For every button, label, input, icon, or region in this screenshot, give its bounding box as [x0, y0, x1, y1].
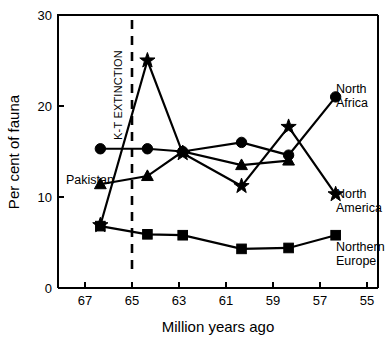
data-point-circle	[236, 137, 246, 147]
data-point-square	[331, 230, 341, 240]
x-tick-label-63: 63	[172, 293, 186, 308]
data-point-square	[143, 230, 153, 240]
x-tick-label-67: 67	[78, 293, 92, 308]
series-label-northern-europe-line2: Europe	[336, 254, 376, 268]
series-label-north-america-line1: North	[336, 187, 367, 201]
data-point-square	[284, 243, 294, 253]
data-point-square	[237, 244, 247, 254]
y-axis-title: Per cent of fauna	[5, 94, 22, 209]
data-point-star	[281, 119, 296, 133]
series-label-northern-europe-line1: Northern	[336, 240, 385, 254]
data-point-star	[140, 53, 155, 67]
series-label-north-america-line2: America	[336, 201, 382, 215]
k-t-extinction-label: K-T EXTINCTION	[112, 50, 124, 140]
series-north-america	[93, 53, 344, 232]
chart-svg: 0 10 20 30 67 65 63 61 59 57 55 Million …	[0, 0, 390, 343]
data-point-star	[175, 145, 190, 159]
data-point-triangle	[142, 170, 154, 181]
x-tick-label-65: 65	[125, 293, 139, 308]
series-layer	[93, 53, 344, 254]
x-tick-label-55: 55	[360, 293, 374, 308]
data-point-square	[96, 221, 106, 231]
series-label-north-africa-line2: Africa	[336, 96, 368, 110]
y-tick-label-0: 0	[45, 281, 52, 296]
fauna-turnover-chart: 0 10 20 30 67 65 63 61 59 57 55 Million …	[0, 0, 390, 343]
series-path	[100, 61, 335, 226]
series-label-north-africa-line1: North	[336, 82, 367, 96]
series-path	[100, 226, 335, 249]
x-tick-label-57: 57	[313, 293, 327, 308]
data-point-circle	[142, 144, 152, 154]
series-path	[100, 152, 288, 185]
series-pakistan	[94, 145, 294, 188]
x-tick-label-59: 59	[266, 293, 280, 308]
data-point-square	[178, 230, 188, 240]
x-axis-title: Million years ago	[162, 318, 275, 335]
plot-frame	[58, 15, 378, 288]
y-tick-label-10: 10	[38, 190, 52, 205]
y-tick-label-20: 20	[38, 99, 52, 114]
x-tick-label-61: 61	[219, 293, 233, 308]
y-tick-label-30: 30	[38, 8, 52, 23]
annotation-pakistan: Pakistan	[66, 173, 114, 187]
data-point-circle	[95, 144, 105, 154]
